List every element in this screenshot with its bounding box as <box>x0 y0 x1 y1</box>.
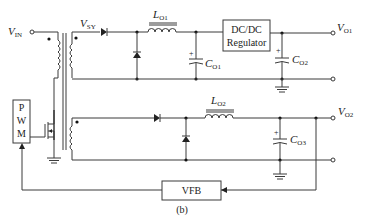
co1-plus: + <box>189 49 194 58</box>
pwm-block: P W M <box>13 100 30 143</box>
feedback-arrow-icon <box>221 187 227 193</box>
svg-text:M: M <box>17 128 26 139</box>
co3-label: CO3 <box>290 133 306 147</box>
capacitor-co3 <box>273 118 287 162</box>
return-2-terminal <box>331 158 335 162</box>
svg-text:Regulator: Regulator <box>227 37 267 48</box>
co1-label: CO1 <box>205 57 221 71</box>
mosfet-switch <box>30 110 54 158</box>
svg-text:DC/DC: DC/DC <box>231 24 262 35</box>
rectifier-diode-2 <box>154 114 160 122</box>
feedback-wire <box>221 118 316 190</box>
return-1-terminal <box>331 77 335 81</box>
freewheel-diode-1 <box>133 32 141 81</box>
lo1-label: LO1 <box>152 8 168 22</box>
svg-text:P: P <box>19 102 25 113</box>
vo1-label: VO1 <box>337 21 353 35</box>
lo2-label: LO2 <box>210 94 226 108</box>
transformer-core <box>63 33 66 150</box>
vo1-terminal <box>331 31 335 35</box>
freewheel-diode-2 <box>182 118 190 162</box>
vo2-terminal <box>331 116 335 120</box>
input-terminal <box>30 30 34 34</box>
dcdc-regulator-block: DC/DC Regulator <box>223 20 270 51</box>
ground-switch <box>47 158 61 163</box>
co2-label: CO2 <box>292 53 308 67</box>
capacitor-co2 <box>275 33 289 81</box>
vin-label: VIN <box>8 25 22 39</box>
secondary-winding-1 <box>70 32 78 78</box>
pwm-feedback-wire <box>22 147 162 190</box>
figure-caption: (b) <box>176 204 188 216</box>
svg-text:VFB: VFB <box>182 185 202 196</box>
rectifier-diode-1 <box>101 28 107 36</box>
vo2-label: VO2 <box>338 105 354 119</box>
ground-1 <box>275 79 289 92</box>
co2-plus: + <box>276 46 281 55</box>
ground-2 <box>273 160 287 179</box>
inductor-lo2 <box>205 110 234 118</box>
co3-plus: + <box>274 128 279 137</box>
circuit-diagram: VIN VSY LO1 <box>0 0 365 218</box>
vfb-block: VFB <box>162 181 221 200</box>
inductor-lo1 <box>148 23 177 32</box>
svg-text:W: W <box>17 115 27 126</box>
primary-wire-top <box>34 32 58 40</box>
pwm-input-arrow-icon <box>19 143 25 149</box>
vsy-label: VSY <box>80 17 96 31</box>
